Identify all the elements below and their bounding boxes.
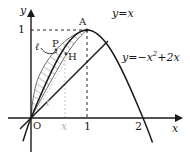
x-tick-label-x: x bbox=[61, 121, 67, 132]
point-label-h: H bbox=[68, 52, 77, 62]
y-tick-label-1: 1 bbox=[18, 24, 25, 35]
math-figure: y x 1 O x 1 2 y=x y=−x2+2x A P H ℓ t bbox=[0, 0, 190, 159]
x-tick-label-2: 2 bbox=[135, 121, 142, 132]
origin-label: O bbox=[33, 121, 41, 131]
x-tick-label-1: 1 bbox=[84, 121, 91, 132]
x-axis-label: x bbox=[172, 123, 178, 134]
point-a-marker bbox=[85, 28, 88, 31]
parabola-equation-main: y=−x bbox=[122, 51, 153, 64]
parabola-equation-tail: +2x bbox=[157, 51, 179, 64]
line-equation-label: y=x bbox=[112, 8, 134, 19]
point-p-marker bbox=[55, 49, 58, 52]
shaded-region bbox=[31, 30, 87, 118]
graph-canvas bbox=[0, 0, 190, 159]
y-axis-label: y bbox=[20, 5, 26, 16]
point-label-a: A bbox=[79, 17, 86, 27]
point-h-marker bbox=[65, 53, 68, 56]
point-label-p: P bbox=[52, 39, 59, 49]
parameter-label-t: t bbox=[46, 98, 50, 108]
parabola-equation-label: y=−x2+2x bbox=[122, 51, 180, 63]
segment-label-l: ℓ bbox=[35, 42, 39, 52]
